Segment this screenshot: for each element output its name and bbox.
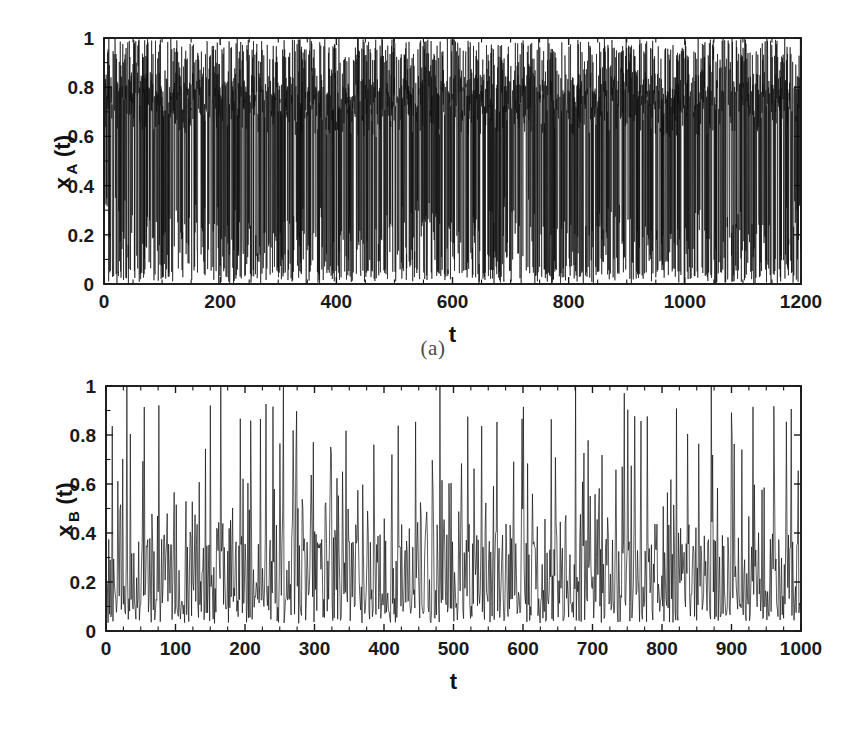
plot-a: 02004006008001000120000.20.40.60.81txA(t… bbox=[0, 0, 866, 372]
data-series-line bbox=[106, 386, 801, 623]
data-series-line bbox=[104, 38, 801, 284]
x-tick-label: 1000 bbox=[780, 638, 822, 659]
y-axis-title-subscript: A bbox=[63, 163, 80, 174]
panel-a: 02004006008001000120000.20.40.60.81txA(t… bbox=[0, 0, 866, 372]
x-tick-label: 200 bbox=[229, 638, 261, 659]
y-tick-label: 0.2 bbox=[68, 225, 94, 246]
y-tick-label: 1 bbox=[83, 28, 94, 49]
x-tick-label: 1000 bbox=[664, 291, 706, 312]
x-tick-label: 0 bbox=[101, 638, 112, 659]
x-tick-label: 900 bbox=[716, 638, 748, 659]
x-tick-label: 300 bbox=[299, 638, 331, 659]
y-axis-title-tail: (t) bbox=[52, 483, 77, 505]
x-tick-label: 400 bbox=[320, 291, 352, 312]
x-tick-label: 500 bbox=[438, 638, 470, 659]
y-tick-label: 0.8 bbox=[68, 77, 94, 98]
x-tick-label: 100 bbox=[160, 638, 192, 659]
x-tick-label: 700 bbox=[577, 638, 609, 659]
x-tick-label: 200 bbox=[204, 291, 236, 312]
y-tick-label: 1 bbox=[85, 376, 96, 397]
x-tick-label: 800 bbox=[553, 291, 585, 312]
x-tick-label: 600 bbox=[437, 291, 469, 312]
x-tick-label: 800 bbox=[646, 638, 678, 659]
x-axis-title: t bbox=[450, 669, 458, 694]
y-axis-title-main: x bbox=[50, 176, 75, 189]
x-tick-label: 600 bbox=[507, 638, 539, 659]
x-tick-label: 1200 bbox=[780, 291, 822, 312]
y-tick-label: 0.8 bbox=[70, 425, 96, 446]
y-tick-label: 0.2 bbox=[70, 572, 96, 593]
caption-a: (a) bbox=[0, 336, 866, 361]
panel-b: 0100200300400500600700800900100000.20.40… bbox=[0, 372, 866, 744]
y-tick-label: 0 bbox=[83, 274, 94, 295]
plot-b: 0100200300400500600700800900100000.20.40… bbox=[0, 372, 866, 744]
figure-container: 02004006008001000120000.20.40.60.81txA(t… bbox=[0, 0, 866, 744]
y-tick-label: 0 bbox=[85, 621, 96, 642]
y-axis-title-subscript: B bbox=[65, 511, 82, 522]
y-axis-title-tail: (t) bbox=[50, 135, 75, 157]
x-tick-label: 0 bbox=[99, 291, 110, 312]
y-axis-title-main: x bbox=[52, 524, 77, 537]
x-tick-label: 400 bbox=[368, 638, 400, 659]
